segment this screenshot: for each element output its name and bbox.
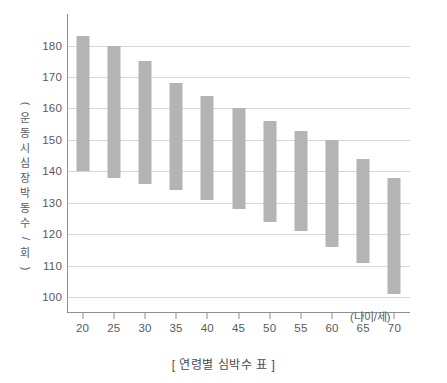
chart-caption: [ 연령별 심박수 표 ] (0, 355, 447, 372)
x-tick-label-40: 40 (201, 322, 214, 334)
y-tick-label-150: 150 (42, 134, 62, 146)
x-tick-70 (394, 313, 395, 319)
x-tick-60 (332, 313, 333, 319)
gridline-100: 100 (68, 297, 410, 298)
y-tick-label-130: 130 (42, 197, 62, 209)
y-tick-label-160: 160 (42, 102, 62, 114)
x-tick-label-50: 50 (263, 322, 276, 334)
bar-age-40 (201, 96, 214, 200)
gridline-110: 110 (68, 266, 410, 267)
x-tick-20 (82, 313, 83, 319)
x-tick-45 (238, 313, 239, 319)
y-tick-label-120: 120 (42, 228, 62, 240)
bar-age-30 (139, 61, 152, 184)
x-tick-label-35: 35 (169, 322, 182, 334)
y-axis-line (67, 14, 68, 313)
y-axis-title-char: ) (18, 258, 33, 280)
y-axis-title-char: 장 (14, 171, 36, 186)
y-axis-title-char: 시 (14, 141, 36, 156)
y-axis-title-char: 심 (14, 156, 36, 171)
y-axis-title: (운동시심장박동수/회) (14, 96, 36, 276)
x-tick-50 (269, 313, 270, 319)
x-tick-55 (300, 313, 301, 319)
bar-age-70 (388, 178, 401, 295)
x-tick-40 (207, 313, 208, 319)
y-tick-label-180: 180 (42, 40, 62, 52)
x-tick-35 (176, 313, 177, 319)
y-axis-title-char: 동 (14, 201, 36, 216)
x-tick-label-55: 55 (294, 322, 307, 334)
y-tick-label-110: 110 (43, 260, 62, 272)
x-tick-30 (145, 313, 146, 319)
bar-age-20 (76, 36, 89, 171)
heart-rate-by-age-chart-figure: 100110120130140150160170180 202530354045… (0, 0, 447, 383)
bar-age-65 (357, 159, 370, 263)
y-tick-label-170: 170 (42, 71, 62, 83)
y-axis-title-char: 동 (14, 126, 36, 141)
y-axis-title-char: / (18, 228, 33, 250)
plot-area: 100110120130140150160170180 202530354045… (67, 14, 410, 313)
bar-age-55 (294, 131, 307, 232)
bar-age-60 (326, 140, 339, 247)
x-tick-label-25: 25 (107, 322, 120, 334)
y-axis-title-char: 박 (14, 186, 36, 201)
bar-age-50 (263, 121, 276, 222)
bar-age-25 (107, 46, 120, 178)
y-tick-label-140: 140 (42, 165, 62, 177)
x-tick-label-60: 60 (325, 322, 338, 334)
x-tick-label-45: 45 (232, 322, 245, 334)
x-tick-label-20: 20 (76, 322, 89, 334)
x-axis-unit-label: (나이/세) (350, 308, 390, 324)
y-tick-label-100: 100 (42, 291, 62, 303)
x-tick-25 (113, 313, 114, 319)
x-tick-label-30: 30 (138, 322, 151, 334)
y-axis-title-char: ( (18, 93, 33, 115)
bar-age-45 (232, 108, 245, 209)
bar-age-35 (170, 83, 183, 190)
